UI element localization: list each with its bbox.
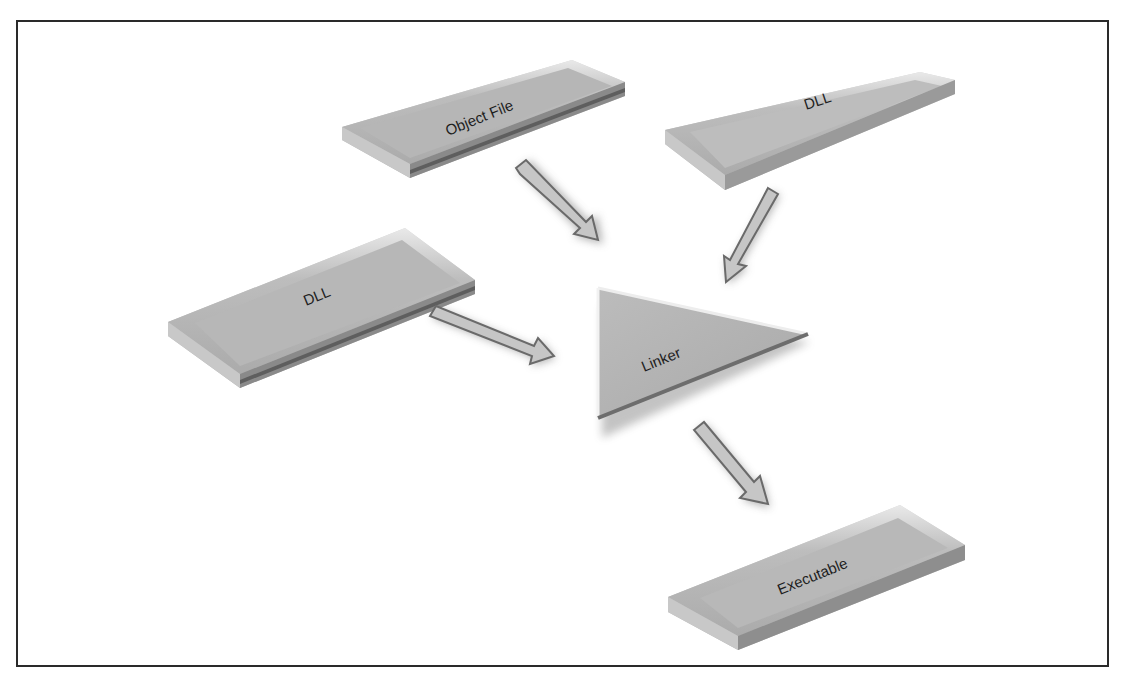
- arrow-object-file-to-linker: [516, 160, 603, 244]
- node-dll-left: DLL: [168, 228, 475, 388]
- node-executable: Executable: [668, 505, 965, 650]
- linker-diagram: Object File DLL DLL Linker Executable: [0, 0, 1128, 684]
- arrow-linker-to-executable: [694, 422, 770, 508]
- node-dll-top-right: DLL: [665, 72, 955, 190]
- node-linker: Linker: [598, 288, 810, 438]
- node-object-file: Object File: [342, 60, 625, 178]
- arrow-dll-top-right-to-linker: [724, 188, 780, 284]
- arrow-dll-left-to-linker: [430, 306, 556, 366]
